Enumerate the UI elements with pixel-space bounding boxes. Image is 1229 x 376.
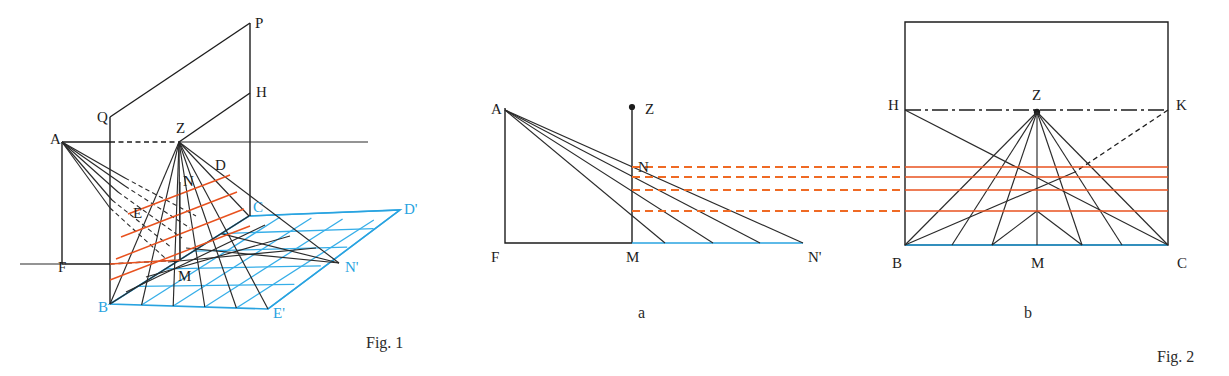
label-z-fig1: Z	[176, 120, 185, 136]
figure-1-caption: Fig. 1	[366, 334, 403, 352]
diagram-canvas: .ink{stroke:#1d1d1d;fill:none;stroke-wid…	[0, 0, 1229, 376]
label-m-fig2b: M	[1031, 255, 1044, 271]
sub-caption-b: b	[1024, 304, 1032, 321]
label-d: D	[215, 157, 226, 173]
label-a-fig1: A	[50, 131, 61, 147]
label-f-fig1: F	[58, 259, 66, 275]
figure-2-caption: Fig. 2	[1157, 348, 1194, 366]
label-p: P	[255, 15, 263, 31]
label-e-prime: E'	[273, 305, 285, 321]
label-n-fig2a: N	[638, 159, 649, 175]
labels-svg: P H Q Z A D N E F M C D' N' B E' A Z N F…	[0, 0, 1229, 376]
label-c-fig2b: C	[1177, 255, 1187, 271]
label-b-fig2b: B	[892, 255, 902, 271]
label-q: Q	[97, 109, 108, 125]
label-h: H	[256, 84, 267, 100]
label-b-fig1: B	[98, 299, 108, 315]
label-e: E	[133, 205, 142, 221]
label-k-fig2b: K	[1176, 97, 1187, 113]
label-n-prime-fig2a: N'	[808, 249, 822, 265]
label-z-fig2a: Z	[645, 101, 654, 117]
label-z-fig2b: Z	[1032, 87, 1041, 103]
label-d-prime: D'	[404, 201, 418, 217]
label-a-fig2a: A	[491, 101, 502, 117]
label-h-fig2b: H	[888, 97, 899, 113]
label-m-fig1: M	[178, 268, 191, 284]
label-m-fig2a: M	[626, 249, 639, 265]
label-f-fig2a: F	[491, 249, 499, 265]
sub-caption-a: a	[638, 304, 645, 321]
label-n-fig1: N	[183, 173, 194, 189]
label-c-fig1: C	[253, 199, 263, 215]
label-n-prime-fig1: N'	[345, 259, 359, 275]
